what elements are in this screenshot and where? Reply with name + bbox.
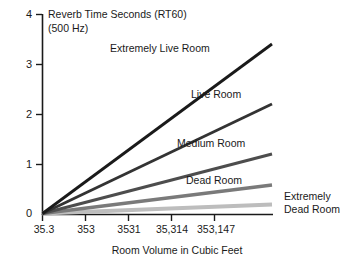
series-line-live-room bbox=[43, 104, 273, 214]
x-tick-label-4: 353,147 bbox=[197, 223, 235, 235]
y-tick-label-1: 1 bbox=[14, 158, 32, 171]
x-tick-label-0: 35.3 bbox=[34, 223, 54, 235]
y-axis-title-line1: Reverb Time Seconds (RT60) bbox=[48, 8, 187, 20]
x-tick-label-2: 3531 bbox=[117, 223, 140, 235]
series-label-extremely-dead-room-line1: Extremely bbox=[284, 190, 331, 202]
x-axis-caption: Room Volume in Cubic Feet bbox=[0, 244, 354, 256]
y-tick-label-4: 4 bbox=[14, 8, 32, 21]
series-label-dead-room: Dead Room bbox=[186, 174, 242, 186]
series-label-live-room: Live Room bbox=[191, 88, 241, 100]
x-tick-label-3: 35,314 bbox=[156, 223, 188, 235]
x-tick-label-1: 353 bbox=[77, 223, 95, 235]
series-label-extremely-live-room: Extremely Live Room bbox=[110, 42, 210, 54]
y-tick-label-2: 2 bbox=[14, 108, 32, 121]
y-tick-label-0: 0 bbox=[14, 207, 32, 220]
series-label-extremely-dead-room-line2: Dead Room bbox=[284, 203, 340, 215]
y-axis-title-line2: (500 Hz) bbox=[48, 22, 88, 34]
y-tick-label-3: 3 bbox=[14, 58, 32, 71]
series-label-medium-room: Medium Room bbox=[177, 137, 245, 149]
reverb-time-chart: Reverb Time Seconds (RT60) (500 Hz) 4 3 … bbox=[0, 0, 354, 266]
